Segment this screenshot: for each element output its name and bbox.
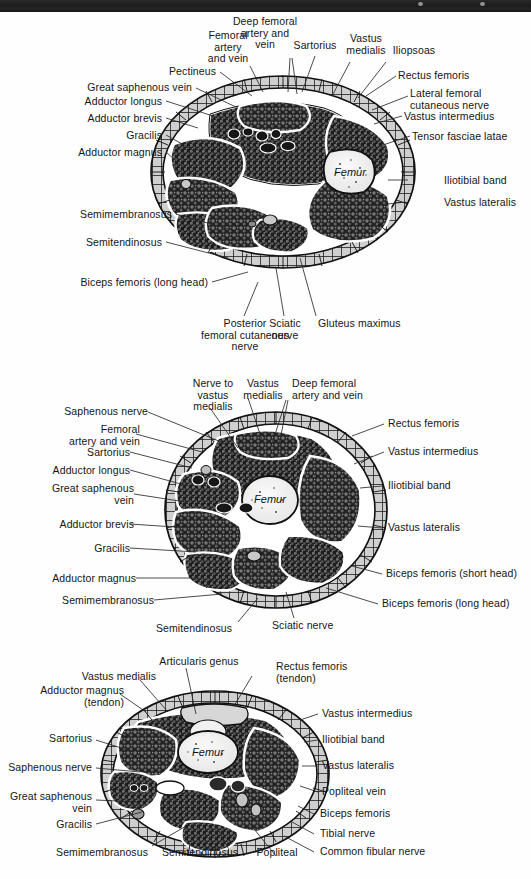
label2-biceps-femoris-long-head: Biceps femoris (long head) bbox=[382, 598, 531, 610]
label2-rectus-femoris: Rectus femoris bbox=[388, 418, 498, 430]
label-adductor-longus: Adductor longus bbox=[56, 96, 162, 108]
label3-semimembranosus: Semimembranosus bbox=[6, 847, 148, 859]
label-adductor-brevis: Adductor brevis bbox=[56, 113, 162, 125]
label-lateral-femoral-cutaneous-nerve: Lateral femoral cutaneous nerve bbox=[410, 88, 528, 111]
label3-vastus-intermedius: Vastus intermedius bbox=[322, 708, 446, 720]
label3-biceps-femoris: Biceps femoris bbox=[320, 808, 424, 820]
label-iliopsoas: Iliopsoas bbox=[386, 45, 442, 57]
label2-vastus-medialis: Vastus medialis bbox=[238, 378, 288, 401]
label2-sartorius: Sartorius bbox=[58, 447, 130, 459]
scan-edge-bar bbox=[0, 0, 531, 12]
label-biceps-femoris-long-head: Biceps femoris (long head) bbox=[20, 277, 208, 289]
label3-vastus-lateralis: Vastus lateralis bbox=[322, 760, 426, 772]
label-sciatic-nerve: Sciatic nerve bbox=[258, 318, 312, 341]
label2-adductor-magnus: Adductor magnus bbox=[26, 573, 136, 585]
label3-saphenous-nerve: Saphenous nerve bbox=[0, 762, 92, 774]
label3-vastus-medialis: Vastus medialis bbox=[60, 671, 156, 683]
label2-biceps-femoris-short-head: Biceps femoris (short head) bbox=[386, 568, 531, 580]
label-tensor-fasciae-latae: Tensor fasciae latae bbox=[412, 131, 531, 143]
label2-vastus-intermedius: Vastus intermedius bbox=[388, 446, 512, 458]
label2-semitendinosus: Semitendinosus bbox=[146, 623, 242, 635]
label2-semimembranosus: Semimembranosus bbox=[14, 595, 154, 607]
figure-distal-thigh: Femur bbox=[98, 688, 332, 863]
label-great-saphenous-vein: Great saphenous vein bbox=[56, 82, 192, 94]
label3-iliotibial-band: Iliotibial band bbox=[322, 734, 422, 746]
label2-gracilis: Gracilis bbox=[58, 543, 130, 555]
scan-ghost-text bbox=[36, 34, 41, 51]
label3-common-fibular-nerve: Common fibular nerve bbox=[320, 846, 460, 858]
label-pectineus: Pectineus bbox=[120, 66, 216, 78]
label2-nerve-to-vastus-medialis: Nerve to vastus medialis bbox=[186, 378, 240, 413]
svg-text:Femur: Femur bbox=[192, 746, 225, 758]
label3-tibial-nerve: Tibial nerve bbox=[320, 828, 414, 840]
figure-proximal-thigh: Femur bbox=[148, 72, 418, 272]
label2-adductor-longus: Adductor longus bbox=[26, 465, 130, 477]
label3-popliteal-vein: Popliteal vein bbox=[322, 786, 422, 798]
label3-great-saphenous-vein: Great saphenous vein bbox=[4, 791, 92, 814]
figure-mid-thigh: Femur bbox=[162, 408, 390, 613]
label3-gracilis: Gracilis bbox=[26, 819, 92, 831]
svg-text:Femur: Femur bbox=[334, 166, 367, 178]
label-iliotibial-band: Iliotibial band bbox=[444, 175, 531, 187]
label2-adductor-brevis: Adductor brevis bbox=[26, 519, 134, 531]
label3-sartorius: Sartorius bbox=[24, 733, 92, 745]
label-vastus-medialis: Vastus medialis bbox=[342, 33, 390, 56]
label-rectus-femoris: Rectus femoris bbox=[398, 70, 508, 82]
label2-deep-femoral-artery-and-vein: Deep femoral artery and vein bbox=[292, 378, 392, 401]
label2-sciatic-nerve: Sciatic nerve bbox=[272, 620, 358, 632]
label-sartorius: Sartorius bbox=[286, 40, 344, 52]
label3-popliteal-artery: Popliteal bbox=[248, 847, 306, 859]
label2-great-saphenous-vein: Great saphenous vein bbox=[24, 483, 134, 506]
label2-vastus-lateralis: Vastus lateralis bbox=[388, 522, 492, 534]
label2-iliotibial-band: Iliotibial band bbox=[388, 480, 488, 492]
label-adductor-magnus: Adductor magnus bbox=[48, 147, 162, 159]
label3-articularis-genus: Articularis genus bbox=[146, 656, 252, 668]
label3-rectus-femoris-tendon: Rectus femoris (tendon) bbox=[276, 661, 372, 684]
label-semitendinosus: Semitendinosus bbox=[42, 237, 162, 249]
svg-text:Femur: Femur bbox=[254, 493, 287, 505]
label-vastus-lateralis: Vastus lateralis bbox=[444, 197, 531, 209]
label3-semitendinosus: Semitendinosus bbox=[152, 847, 248, 859]
label2-saphenous-nerve: Saphenous nerve bbox=[38, 406, 148, 418]
label-gluteus-maximus: Gluteus maximus bbox=[318, 318, 428, 330]
scanned-page: Femur bbox=[0, 0, 531, 879]
label-vastus-intermedius: Vastus intermedius bbox=[404, 111, 528, 123]
label-gracilis: Gracilis bbox=[60, 130, 162, 142]
label2-femoral-artery-and-vein: Femoral artery and vein bbox=[36, 424, 140, 447]
label3-adductor-magnus-tendon: Adductor magnus (tendon) bbox=[12, 685, 124, 708]
label-semimembranosus: Semimembranosus bbox=[30, 209, 172, 221]
